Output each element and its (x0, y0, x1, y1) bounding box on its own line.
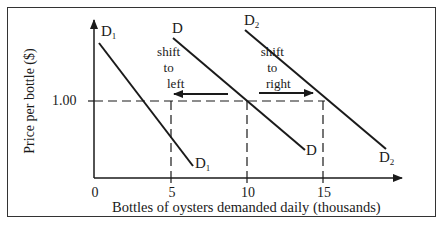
curve-label-d-top: D (172, 21, 183, 36)
curve-label-d1-top: D1 (101, 24, 116, 41)
annotation-shift-right: shift to right (254, 44, 291, 92)
x-tick-label-10: 10 (241, 185, 255, 201)
annotation-line: right (266, 76, 291, 92)
x-tick-label-0: 0 (92, 185, 99, 201)
annotation-line: to (254, 60, 291, 76)
curve-label-d2-top: D2 (244, 13, 259, 30)
y-tick-label-1: 1.00 (52, 94, 77, 108)
annotation-line: shift (254, 44, 291, 60)
y-axis-label: Price per bottle ($) (22, 48, 38, 153)
chart-plot (0, 0, 444, 225)
annotation-line: shift (153, 44, 184, 60)
curve-label-d2-bottom: D2 (379, 150, 394, 167)
x-axis-label: Bottles of oysters demanded daily (thous… (112, 199, 381, 216)
x-tick-label-5: 5 (169, 185, 176, 201)
curve-label-d-bottom: D (306, 143, 317, 158)
x-tick-label-15: 15 (317, 185, 331, 201)
annotation-line: to (153, 60, 184, 76)
annotation-shift-left: shift to left (153, 44, 184, 92)
curve-label-d1-bottom: D1 (195, 156, 210, 173)
annotation-line: left (167, 76, 184, 92)
